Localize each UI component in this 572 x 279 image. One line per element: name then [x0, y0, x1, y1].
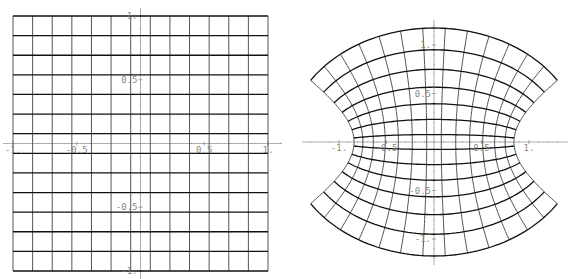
y-tick-label: 1. [420, 40, 431, 50]
y-tick-label: 0.5 [121, 75, 137, 85]
y-tick-label: -1. [121, 266, 137, 276]
sin-mapped-grid-plot: -1.-0.50.51.1.0.5-0.5-1. [286, 0, 572, 279]
y-tick-label: -0.5 [409, 186, 431, 196]
y-tick-label: -0.5 [116, 202, 138, 212]
y-tick-label: 1. [127, 11, 138, 21]
x-tick-label: 1. [524, 143, 535, 153]
x-tick-label: 0.5 [473, 143, 489, 153]
x-tick-label: -0.5 [376, 143, 398, 153]
x-tick-label: 1. [263, 145, 274, 155]
domain-grid-plot: -1.-0.50.51.1.0.5-0.5-1. [0, 0, 286, 279]
x-tick-label: -1. [331, 143, 347, 153]
x-tick-label: -0.5 [66, 145, 88, 155]
y-tick-label: -1. [415, 234, 431, 244]
axes [3, 8, 282, 279]
x-tick-label: -1. [5, 145, 21, 155]
x-tick-label: 0.5 [196, 145, 212, 155]
y-tick-label: 0.5 [415, 89, 431, 99]
